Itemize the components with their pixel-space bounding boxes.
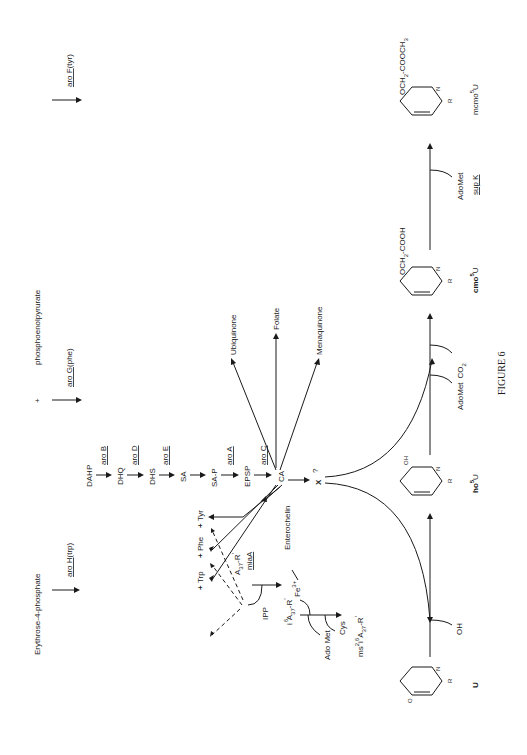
aroF-label: aro F(tyr) (65, 54, 74, 87)
arrowhead (266, 472, 272, 478)
product-ubiquinone: Ubiquinone (229, 314, 238, 355)
fe3-ion: Fe3+ (291, 580, 302, 597)
phosphoenolpyruvate: phosphoenolpyrurate (33, 289, 42, 365)
amino-acid-tyr: + Tyr (196, 510, 205, 528)
amino-acid-trp: + Trp (196, 571, 205, 590)
cys-reagent: Cys (338, 621, 347, 635)
product-enterochelin: Enterochelin (283, 506, 292, 550)
i6a-to-trp (212, 609, 240, 635)
uracil-structure-ho5U: N R OH (400, 456, 453, 495)
svg-text:O: O (407, 698, 413, 703)
arrowhead (169, 472, 175, 478)
arrowhead (427, 313, 433, 319)
intermediate-CA: CA (277, 470, 286, 482)
unknown-question: ? (311, 468, 320, 473)
fe-enterochelin-link (292, 570, 298, 580)
a37-r-substrate: A37-R' (230, 553, 244, 575)
label-U: U (471, 682, 480, 688)
adomet-reagent: Ado Met (323, 629, 332, 660)
intermediate-DAHP: DAHP (85, 465, 94, 487)
x-to-oh-step (325, 483, 430, 620)
label-cmo5U: cmo5U (469, 267, 480, 293)
arrowhead (261, 496, 267, 502)
adomet-curve (308, 615, 320, 635)
ipp-label: IPP (261, 607, 270, 620)
svg-text:N: N (435, 467, 441, 471)
figure-caption: FIGURE 6 (496, 351, 507, 395)
adomet-curve-3 (430, 170, 452, 177)
oh-reagent: OH (455, 623, 464, 635)
arrowhead (76, 97, 82, 103)
ms2i6a37-r: ms2i6A37-R' (353, 615, 367, 657)
label-mcmo5U: mcmo5U (469, 84, 480, 115)
svg-text:N: N (435, 87, 441, 91)
arrowhead (211, 528, 215, 533)
intermediate-EPSP: EPSP (243, 466, 252, 487)
intermediate-DHS: DHS (148, 468, 157, 485)
intermediate-SA: SA (179, 471, 188, 482)
arrowhead (200, 472, 206, 478)
x-to-cmo-step (325, 360, 432, 477)
svg-text:N: N (435, 267, 441, 271)
mcmo-substituent: OCH2-COOCH3 (398, 37, 409, 95)
unknown-x: X (314, 479, 323, 485)
ca-to-ubiquinone (232, 360, 276, 470)
cmo-substituent: OCH2-COOH (398, 227, 409, 275)
arrowhead (208, 514, 214, 520)
uracil-structure-U: N R O (400, 667, 453, 703)
svg-text:R: R (447, 98, 453, 103)
svg-text:R: R (447, 478, 453, 483)
i6a37-r: 6iA37-R' (282, 598, 296, 625)
adomet-curve-2 (430, 375, 452, 383)
svg-text:R: R (447, 278, 453, 283)
aroC-label: aro C (259, 445, 268, 465)
product-menaquinone: Menaquinone (315, 306, 324, 355)
adomet-co2-reagent: AdoMetCO2 (456, 362, 467, 410)
oh-curve (430, 620, 452, 625)
aroB-label: aro B (99, 446, 108, 465)
figure-canvas: Erythrose-4-phosphate + phosphoenolpyrur… (0, 0, 527, 755)
arrowhead (138, 472, 144, 478)
arrowhead (276, 582, 282, 588)
aroA-label: aro A (225, 446, 234, 465)
arrowhead (74, 587, 80, 593)
svg-text:R: R (447, 678, 453, 683)
adomet-supk-reagent: AdoMet (456, 172, 465, 200)
arrowhead (336, 612, 342, 618)
arrowhead (210, 563, 215, 568)
co2-curve (430, 345, 452, 353)
arrowhead (106, 472, 112, 478)
arrowhead (304, 477, 310, 483)
intermediate-DHQ: DHQ (116, 467, 125, 485)
amino-acid-phe: + Phe (196, 536, 205, 558)
ca-to-enterochelin (265, 485, 282, 500)
svg-text:OH: OH (403, 456, 409, 465)
product-folate: Folate (272, 307, 281, 330)
arrowhead (314, 358, 320, 365)
arrowhead (273, 333, 279, 339)
cys-curve (325, 615, 335, 631)
arrowhead (76, 397, 82, 403)
plus-sign: + (33, 398, 42, 403)
rotated-figure: Erythrose-4-phosphate + phosphoenolpyrur… (33, 37, 507, 703)
aroG-label: aro G(phe) (65, 348, 74, 387)
fe-curve (300, 600, 310, 615)
miaA-label: miaA (245, 551, 254, 570)
uracil-structure-mcmo5U: N R (400, 87, 453, 115)
aroE-label: aro E (161, 446, 170, 465)
arrowhead (231, 358, 236, 365)
aroD-label: aro D (130, 445, 139, 465)
supK-label: sup K (471, 174, 480, 195)
intermediate-SA-P: SA-P (210, 468, 219, 487)
ipp-curve (248, 585, 262, 605)
label-ho5U: ho5U (469, 474, 480, 493)
svg-text:N: N (435, 667, 441, 671)
ca-to-menaquinone (280, 360, 318, 470)
arrowhead (427, 513, 433, 519)
erythrose-4-phosphate: Erythrose-4-phosphate (33, 573, 42, 655)
aroH-label: aro H(trp) (65, 542, 74, 577)
uracil-structure-cmo5U: N R (400, 267, 453, 295)
arrowhead (427, 143, 433, 149)
arrowhead (233, 472, 239, 478)
